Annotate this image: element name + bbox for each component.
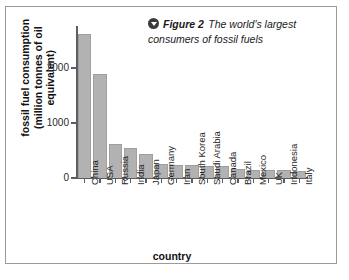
x-tick-label: Indonesia — [288, 144, 299, 185]
x-tick — [253, 179, 254, 183]
x-tick — [268, 179, 269, 183]
x-tick-label: Brazil — [242, 161, 253, 185]
plot-area — [77, 27, 307, 178]
x-tick-label: Iran — [181, 169, 192, 185]
x-tick-label: Russia — [119, 156, 130, 185]
x-tick-label: India — [135, 164, 146, 185]
x-tick — [176, 179, 177, 183]
x-tick-label: Japan — [150, 159, 161, 185]
x-tick — [99, 179, 100, 183]
x-tick-label: USA — [104, 165, 115, 185]
x-tick-label: Italy — [303, 168, 314, 185]
y-axis-title-line2: (million tonnes of oil equivalent) — [32, 0, 57, 158]
x-tick-label: China — [89, 160, 100, 185]
x-tick — [237, 179, 238, 183]
bar — [78, 34, 91, 178]
y-axis-title-line1: fossil fuel consumption — [19, 0, 32, 158]
y-tick-label: 2000 — [36, 62, 69, 73]
y-tick-label: 0 — [36, 172, 69, 183]
x-tick-label: UK — [273, 172, 284, 185]
x-tick — [115, 179, 116, 183]
x-tick — [299, 179, 300, 183]
x-tick — [191, 179, 192, 183]
x-tick-label: Germany — [165, 146, 176, 185]
x-tick — [84, 179, 85, 183]
x-tick — [145, 179, 146, 183]
x-tick-label: Saudi Arabia — [211, 131, 222, 185]
x-tick-label: Canada — [227, 152, 238, 185]
x-axis-title: country — [6, 250, 338, 262]
x-tick — [130, 179, 131, 183]
y-axis-title: fossil fuel consumption (million tonnes … — [19, 0, 57, 158]
figure-panel: Figure 2 The world's largest consumers o… — [5, 6, 337, 264]
x-tick-label: South Korea — [196, 132, 207, 185]
y-tick-label: 1000 — [36, 117, 69, 128]
x-tick — [161, 179, 162, 183]
x-tick-label: Mexico — [257, 155, 268, 185]
x-tick — [283, 179, 284, 183]
x-tick — [207, 179, 208, 183]
x-tick — [222, 179, 223, 183]
